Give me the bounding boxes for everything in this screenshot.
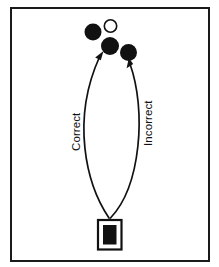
incorrect-trajectory-curve xyxy=(111,64,140,218)
disc-incorrect-target xyxy=(120,44,137,61)
disc-correct-target xyxy=(101,37,119,55)
correct-arrowhead-icon xyxy=(95,51,103,60)
figure-root: Correct Incorrect xyxy=(0,0,219,267)
incorrect-label: Incorrect xyxy=(142,100,154,146)
correct-trajectory-curve xyxy=(84,57,109,218)
correct-label: Correct xyxy=(70,112,82,151)
disc-upper-left-filled xyxy=(85,24,102,41)
disc-upper-right-open xyxy=(104,20,116,32)
start-stimulus-box-inner xyxy=(103,225,117,245)
diagram-canvas: Correct Incorrect xyxy=(0,0,219,267)
